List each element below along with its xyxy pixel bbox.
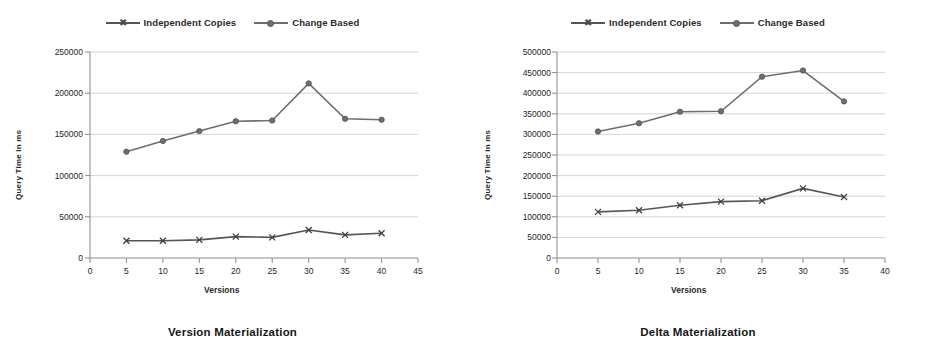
x-tick-label: 15 bbox=[195, 266, 204, 276]
y-tick-label: 200000 bbox=[35, 88, 83, 98]
gridlines bbox=[557, 52, 885, 237]
x-tick-label: 25 bbox=[267, 266, 276, 276]
axis-lines bbox=[90, 52, 418, 258]
x-tick-label: 30 bbox=[798, 266, 807, 276]
x-tick-label: 45 bbox=[413, 266, 422, 276]
chart-panel-delta-materialization: ✖ Independent Copies Change Based Query … bbox=[465, 0, 931, 364]
y-tick-label: 250000 bbox=[499, 150, 551, 160]
x-tick-label: 35 bbox=[340, 266, 349, 276]
series-line-change-based bbox=[598, 71, 844, 132]
y-tick-label: 500000 bbox=[499, 47, 551, 57]
y-tick-label: 450000 bbox=[499, 68, 551, 78]
y-tick-label: 350000 bbox=[499, 109, 551, 119]
x-axis-title: Versions bbox=[204, 285, 239, 295]
x-tick-label: 40 bbox=[880, 266, 889, 276]
x-axis-ticks bbox=[90, 258, 418, 263]
plot-area-delta: Query Time in ms 0 50000 100000 150000 2… bbox=[465, 0, 931, 310]
y-tick-label: 100000 bbox=[499, 212, 551, 222]
series-markers-change-based bbox=[124, 81, 385, 155]
y-axis-title: Query Time in ms bbox=[14, 130, 23, 200]
gridlines bbox=[90, 52, 418, 217]
x-tick-label: 35 bbox=[839, 266, 848, 276]
x-tick-label: 10 bbox=[634, 266, 643, 276]
y-tick-label: 150000 bbox=[35, 129, 83, 139]
y-tick-label: 0 bbox=[499, 253, 551, 263]
series-markers-independent-copies bbox=[123, 227, 384, 244]
x-tick-label: 10 bbox=[158, 266, 167, 276]
x-tick-label: 5 bbox=[596, 266, 601, 276]
x-tick-label: 20 bbox=[716, 266, 725, 276]
y-tick-label: 400000 bbox=[499, 88, 551, 98]
plot-area-version: Query Time in ms 0 50000 100000 150000 2… bbox=[0, 0, 465, 310]
chart-caption: Version Materialization bbox=[0, 326, 465, 338]
x-tick-label: 40 bbox=[377, 266, 386, 276]
chart-panel-version-materialization: ✖ Independent Copies Change Based Query … bbox=[0, 0, 465, 364]
x-tick-label: 0 bbox=[88, 266, 93, 276]
y-tick-label: 300000 bbox=[499, 129, 551, 139]
figure-row: ✖ Independent Copies Change Based Query … bbox=[0, 0, 931, 364]
y-tick-label: 200000 bbox=[499, 171, 551, 181]
x-tick-label: 30 bbox=[304, 266, 313, 276]
y-axis-title: Query Time in ms bbox=[483, 130, 492, 200]
x-tick-label: 15 bbox=[675, 266, 684, 276]
series-line-independent-copies bbox=[598, 188, 844, 212]
y-tick-label: 250000 bbox=[35, 47, 83, 57]
y-tick-label: 150000 bbox=[499, 191, 551, 201]
y-axis-ticks bbox=[552, 52, 557, 258]
y-tick-label: 100000 bbox=[35, 171, 83, 181]
x-tick-label: 25 bbox=[757, 266, 766, 276]
y-axis-ticks bbox=[85, 52, 90, 258]
x-axis-title: Versions bbox=[671, 285, 706, 295]
y-tick-label: 50000 bbox=[35, 212, 83, 222]
x-tick-label: 0 bbox=[555, 266, 560, 276]
y-tick-label: 0 bbox=[35, 253, 83, 263]
x-axis-ticks bbox=[557, 258, 885, 263]
y-tick-label: 50000 bbox=[499, 232, 551, 242]
x-tick-label: 20 bbox=[231, 266, 240, 276]
chart-caption: Delta Materialization bbox=[465, 326, 931, 338]
x-tick-label: 5 bbox=[124, 266, 129, 276]
